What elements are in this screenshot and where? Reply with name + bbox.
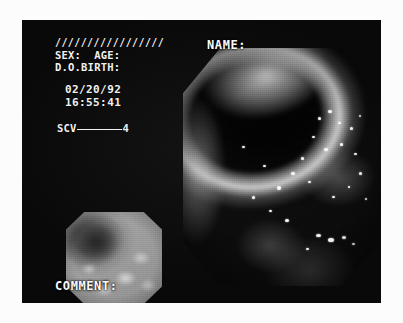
main-endoscopic-image[interactable]	[183, 48, 379, 286]
comment-field[interactable]: COMMENT:	[55, 279, 118, 293]
scv-rule	[77, 129, 122, 130]
exam-time: 16:55:41	[65, 97, 205, 110]
scv-label: SCV	[57, 122, 77, 134]
scv-scale: SCV 4	[55, 122, 205, 134]
print-frame: ///////////////// SEX: AGE: D.O.BIRTH: 0…	[22, 20, 381, 303]
exam-datetime: 02/20/92 16:55:41	[55, 84, 205, 109]
video-print-page: ///////////////// SEX: AGE: D.O.BIRTH: 0…	[0, 0, 403, 323]
name-field[interactable]: NAME:	[207, 38, 246, 52]
date-of-birth-field[interactable]: D.O.BIRTH:	[55, 61, 205, 73]
patient-info-overlay: ///////////////// SEX: AGE: D.O.BIRTH: 0…	[55, 38, 205, 134]
scv-value: 4	[123, 122, 130, 134]
hatch-marks: /////////////////	[55, 38, 205, 49]
main-image-grain	[183, 48, 379, 286]
exam-date: 02/20/92	[65, 84, 205, 97]
sex-age-field[interactable]: SEX: AGE:	[55, 49, 205, 61]
